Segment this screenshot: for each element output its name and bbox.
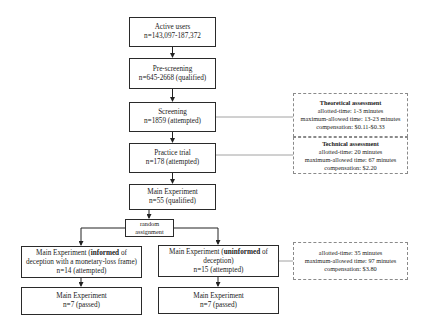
main-experiment-count: n=55 (qualified): [149, 197, 196, 206]
pre-screening-title: Pre-screening: [153, 65, 193, 74]
random-assignment-line1: random: [140, 220, 159, 228]
main-experiment-title: Main Experiment: [147, 188, 198, 197]
screening-box: Screening n=1859 (attempted): [129, 102, 216, 132]
informed-branch-count: n=14 (attempted): [57, 267, 107, 276]
uninformed-result-count: n=7 (passed): [200, 301, 237, 310]
pre-screening-count: n=645-2668 (qualified): [139, 74, 206, 83]
theoretical-compensation: compensation: $0.11-$0.33: [316, 123, 385, 131]
screening-count: n=1859 (attempted): [144, 117, 201, 126]
screening-title: Screening: [158, 108, 187, 117]
informed-result-title: Main Experiment: [56, 292, 107, 301]
active-users-count: n=143,097-187,372: [144, 32, 201, 41]
technical-heading: Technical assessment: [322, 140, 379, 148]
informed-result-count: n=7 (passed): [63, 301, 100, 310]
main-note-allotted: allotted-time: 35 minutes: [319, 249, 382, 257]
active-users-title: Active users: [155, 23, 191, 32]
practice-trial-count: n=178 (attempted): [146, 158, 199, 167]
uninformed-branch-title-line2: deception): [203, 257, 233, 266]
pre-screening-box: Pre-screening n=645-2668 (qualified): [129, 58, 216, 89]
main-note-max-allowed: maximum-allowed time: 97 minutes: [305, 257, 396, 265]
practice-trial-box: Practice trial n=178 (attempted): [129, 143, 216, 173]
main-experiment-note: allotted-time: 35 minutes maximum-allowe…: [293, 242, 408, 280]
random-assignment-box: random assignment: [125, 219, 174, 237]
theoretical-assessment-note: Theoretical assessment allotted-time: 1-…: [293, 93, 408, 137]
theoretical-max-allowed: maximum-allowed time: 13-23 minutes: [301, 115, 401, 123]
uninformed-branch-title: Main Experiment (uninformed of: [169, 248, 268, 257]
practice-trial-title: Practice trial: [154, 149, 191, 158]
technical-compensation: compensation: $2.20: [324, 164, 376, 172]
uninformed-result-title: Main Experiment: [193, 292, 244, 301]
uninformed-branch-count: n=15 (attempted): [194, 266, 244, 275]
theoretical-heading: Theoretical assessment: [320, 99, 382, 107]
informed-branch-title: Main Experiment (informed of: [36, 249, 127, 258]
technical-assessment-note: Technical assessment allotted-time: 20 m…: [293, 137, 408, 174]
random-assignment-line2: assignment: [135, 228, 163, 236]
technical-max-allowed: maximum-allowed time: 67 minutes: [305, 156, 396, 164]
informed-branch-box: Main Experiment (informed of deception w…: [21, 246, 142, 278]
informed-branch-title-line2: deception with a monetary-loss frame): [26, 258, 137, 267]
uninformed-branch-box: Main Experiment (uninformed of deception…: [158, 245, 279, 277]
main-experiment-box: Main Experiment n=55 (qualified): [129, 184, 216, 210]
main-note-compensation: compensation: $3.80: [324, 265, 376, 273]
theoretical-allotted: allotted-time: 1-3 minutes: [318, 107, 383, 115]
uninformed-result-box: Main Experiment n=7 (passed): [158, 287, 279, 314]
informed-result-box: Main Experiment n=7 (passed): [21, 287, 142, 315]
active-users-box: Active users n=143,097-187,372: [129, 17, 216, 47]
technical-allotted: allotted-time: 20 minutes: [319, 148, 382, 156]
